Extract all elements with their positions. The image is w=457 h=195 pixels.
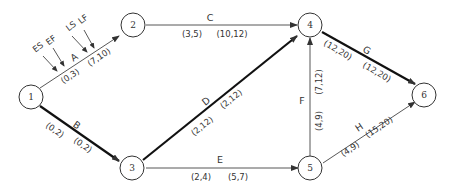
activity-A-early: (0,3) xyxy=(59,66,81,86)
activity-H-late: (15,20) xyxy=(363,114,394,140)
activity-F-late: (7,12) xyxy=(314,69,324,95)
node-1: 1 xyxy=(19,85,43,109)
activity-B-late: (0,2) xyxy=(72,135,94,155)
edge-G xyxy=(322,32,415,84)
legend-es: ES xyxy=(31,40,46,55)
activity-label-F: F xyxy=(299,95,304,106)
activity-label-C: C xyxy=(207,12,214,23)
node-4: 4 xyxy=(298,13,322,37)
activity-H-early: (4,9) xyxy=(339,139,361,159)
activity-E-late: (5,7) xyxy=(228,172,248,182)
svg-text:4: 4 xyxy=(307,20,313,30)
activity-D-late: (2,12) xyxy=(218,87,244,111)
activity-E-early: (2,4) xyxy=(191,172,211,182)
legend-ef: EF xyxy=(44,33,58,47)
svg-text:5: 5 xyxy=(307,163,313,173)
activity-label-E: E xyxy=(217,154,223,165)
legend-lf: LF xyxy=(76,12,90,26)
network-diagram: ES EF LS LF A (0,3) (7,10) B (0,2) (0,2)… xyxy=(0,0,457,195)
edge-D xyxy=(143,36,297,160)
svg-text:1: 1 xyxy=(28,92,34,102)
node-2: 2 xyxy=(121,13,145,37)
svg-text:3: 3 xyxy=(129,163,135,173)
activity-D-early: (2,12) xyxy=(189,114,215,138)
activity-label-A: A xyxy=(68,50,80,63)
node-3: 3 xyxy=(120,156,144,180)
activity-F-early: (4,9) xyxy=(314,111,324,131)
activity-C-late: (10,12) xyxy=(217,29,248,39)
svg-text:6: 6 xyxy=(421,90,427,100)
node-6: 6 xyxy=(412,83,436,107)
legend-ls: LS xyxy=(64,19,78,33)
node-5: 5 xyxy=(298,156,322,180)
activity-C-early: (3,5) xyxy=(182,29,202,39)
svg-text:2: 2 xyxy=(130,20,136,30)
